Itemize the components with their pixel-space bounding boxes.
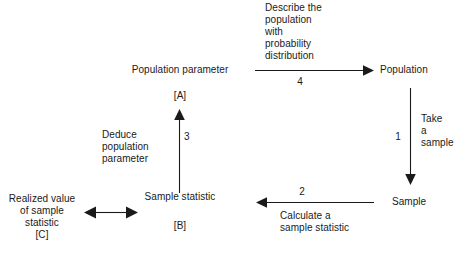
edge-4-number: 4 [288, 76, 312, 88]
edge-equivalence-arrow [84, 206, 138, 218]
node-realized-value-tag: [C] [0, 229, 84, 241]
edge-2-caption-line2: sample statistic [280, 222, 349, 234]
edge-1-caption-line1: Take [421, 113, 442, 125]
node-realized-value-line2: of sample [0, 205, 84, 217]
edge-4-caption-line2: population [265, 14, 312, 26]
edge-1-number: 1 [388, 131, 408, 143]
node-sample-label: Sample [392, 196, 426, 208]
edge-4-caption-line5: distribution [265, 50, 314, 62]
edge-4-arrow [255, 65, 374, 76]
edge-2-arrow [256, 197, 374, 208]
edge-4-caption-line1: Describe the [265, 2, 322, 14]
edge-3-caption-line1: Deduce [102, 129, 137, 141]
edge-3-arrow [174, 109, 185, 193]
node-population-parameter-label: Population parameter [104, 64, 256, 76]
edge-1-caption-line2: a [421, 125, 427, 137]
statistical-inference-diagram: Describe the population with probability… [0, 0, 459, 255]
edge-3-number: 3 [184, 131, 204, 143]
node-population-label: Population [380, 64, 428, 76]
edge-3-caption-line3: parameter [102, 153, 148, 165]
node-population-parameter-tag: [A] [156, 90, 204, 102]
node-sample-statistic-tag: [B] [156, 220, 204, 232]
node-realized-value-line1: Realized value [0, 193, 84, 205]
node-sample-statistic-label: Sample statistic [139, 191, 221, 203]
edge-1-caption-line3: sample [421, 137, 454, 149]
edge-4-caption-line3: with [265, 26, 283, 38]
edge-3-caption-line2: population [102, 141, 149, 153]
edge-2-caption-line1: Calculate a [280, 210, 331, 222]
node-realized-value-line3: statistic [0, 217, 84, 229]
edge-4-caption-line4: probability [265, 38, 311, 50]
edge-2-number: 2 [290, 186, 314, 198]
